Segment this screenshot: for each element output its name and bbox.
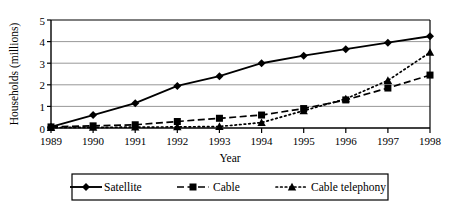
data-point-square [258, 112, 265, 119]
x-tick-label: 1997 [377, 135, 400, 147]
x-tick-label: 1992 [166, 135, 188, 147]
y-tick-label: 5 [40, 15, 46, 27]
y-axis-title: Households (millions) [8, 23, 21, 126]
x-tick-label: 1993 [208, 135, 231, 147]
data-point-square [216, 115, 223, 122]
legend-label-satellite: Satellite [104, 181, 142, 193]
legend-label-cable: Cable [213, 181, 240, 193]
data-point-square [427, 72, 434, 79]
x-axis-title: Year [219, 152, 240, 164]
y-tick-label: 2 [40, 79, 46, 91]
legend-marker-square [190, 184, 197, 191]
x-tick-label: 1998 [419, 135, 442, 147]
x-tick-label: 1995 [293, 135, 316, 147]
x-tick-label: 1991 [124, 135, 146, 147]
y-tick-label: 3 [40, 58, 46, 70]
y-tick-label: 4 [40, 36, 46, 48]
y-tick-label: 1 [40, 101, 46, 113]
x-tick-label: 1989 [40, 135, 63, 147]
x-tick-label: 1994 [251, 135, 274, 147]
line-chart-figure: Households (millions) 5 4 3 2 1 0 [0, 0, 460, 206]
y-tick-label: 0 [40, 123, 46, 135]
x-tick-label: 1990 [82, 135, 105, 147]
x-tick-label: 1996 [335, 135, 358, 147]
legend-label-cable-telephony: Cable telephony [311, 181, 386, 194]
chart-svg: Households (millions) 5 4 3 2 1 0 [0, 0, 460, 206]
data-point-square [384, 85, 391, 92]
